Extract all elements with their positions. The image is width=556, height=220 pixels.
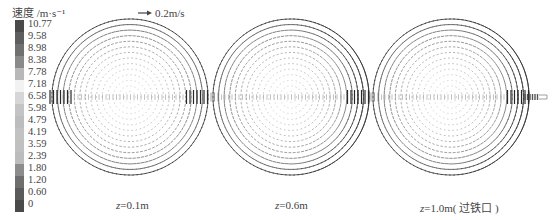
- colorbar-swatch: [15, 188, 24, 200]
- colorbar-swatch: [15, 200, 24, 212]
- colorbar-tick-label: 0: [28, 198, 52, 210]
- caption-z-0-1: z=0.1m: [116, 199, 149, 211]
- vector-field-plots: [0, 0, 556, 180]
- caption-z-0-6: z=0.6m: [275, 199, 308, 211]
- colorbar-tick-label: 0.60: [28, 186, 52, 198]
- caption-z-1-0: z=1.0m( 过铁口 ): [420, 199, 499, 215]
